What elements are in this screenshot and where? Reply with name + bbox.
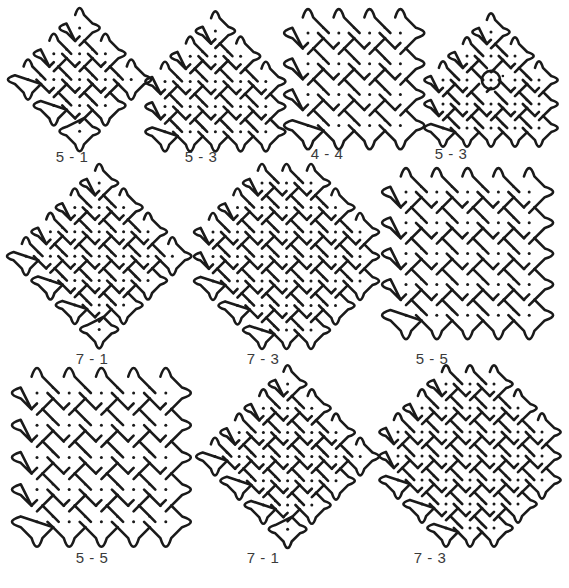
kolam-dot [469,479,472,482]
kolam-loop [295,164,331,200]
kolam-dot [445,479,448,482]
kolam-dot [405,283,408,286]
kolam-dot [49,279,52,282]
kolam-dot [164,105,167,108]
kolam-dot [286,431,289,434]
kolam-dot [497,314,500,317]
kolam-dot [541,431,544,434]
kolam-loop [502,488,537,523]
kolam-loop [478,168,520,213]
kolam-loop [424,112,459,147]
kolam-dot [164,488,167,491]
kolam-loop [224,37,261,74]
kolam-dot [310,231,313,234]
kolam-dot [399,62,402,65]
kolam-dot [122,255,125,258]
kolam-dot [421,455,424,458]
kolam-dot [466,79,469,82]
kolam-loop [88,34,125,71]
kolam-dot [334,206,337,209]
kolam-dot [132,392,135,395]
kolam-loop [194,213,230,249]
kolam-loop [48,368,91,415]
kolam-dot [212,280,215,283]
kolam-dot [310,504,313,507]
kolam-dot [214,30,217,33]
kolam-label-6: 7 - 3 [247,350,280,367]
kolam-loop [171,37,208,74]
kolam-loop [107,188,142,223]
kolam-loop [31,213,66,248]
kolam-loop [416,168,458,213]
kolam-dot [122,304,125,307]
kolam-dot [98,230,101,233]
kolam-dot [36,488,39,491]
kolam-dot [239,55,242,58]
kolam-dot [261,182,264,185]
kolam-loop [499,37,534,72]
kolam-dot [334,255,337,258]
kolam-dot [335,479,338,482]
kolam-loop [380,9,425,54]
kolam-dot [538,127,541,130]
kolam-dot [238,479,241,482]
kolam-dot [98,328,101,331]
kolam-loop [447,294,489,339]
kolam-dot [528,221,531,224]
kolam-dot [307,93,310,96]
kolam-dot [239,105,242,108]
kolam-dot [493,503,496,506]
kolam-loop [382,168,427,213]
kolam-5 [7,164,191,348]
kolam-dot [262,431,265,434]
kolam-dot [189,130,192,133]
kolam-dot [122,279,125,282]
kolam-dot [147,255,150,258]
kolam-dot [445,455,448,458]
kolam-dot [189,80,192,83]
kolam-dot [36,392,39,395]
kolam-2 [145,11,285,151]
kolam-dot [399,32,402,35]
kolam-dot [104,104,107,107]
kolam-dot [307,32,310,35]
kolam-dot [490,127,493,130]
kolam-dot [73,304,76,307]
kolam-loop [320,414,355,449]
kolam-loop [502,389,537,424]
kolam-dot [164,424,167,427]
kolam-loop [344,213,380,249]
kolam-loop [194,265,230,301]
kolam-dot [73,206,76,209]
kolam-dot [78,27,81,30]
kolam-loop [478,294,520,339]
kolam-loop [12,404,59,447]
kolam-dot [405,191,408,194]
kolam-loop [220,414,255,449]
kolam-dot [261,280,264,283]
kolam-dot [286,479,289,482]
kolam-loop [416,294,458,339]
kolam-label-2: 5 - 3 [185,148,218,165]
kolam-loop [144,468,191,511]
kolam-dot [517,455,520,458]
kolam-dot [286,455,289,458]
kolam-loop [508,202,553,244]
kolam-dot [469,407,472,410]
kolam-dot [49,230,52,233]
kolam-loop [320,465,355,500]
kolam-loop [132,213,167,248]
kolam-dot [310,182,313,185]
kolam-dot [164,130,167,133]
kolam-loop [56,188,91,223]
kolam-dot [399,93,402,96]
kolam-loop [144,368,191,415]
kolam-dot [493,479,496,482]
kolam-dot [212,255,215,258]
kolam-loop [296,489,331,524]
kolam-dot [445,383,448,386]
kolam-dot [286,504,289,507]
kolam-dot [171,255,174,258]
kolam-dot [212,231,215,234]
kolam-loop [48,500,91,547]
